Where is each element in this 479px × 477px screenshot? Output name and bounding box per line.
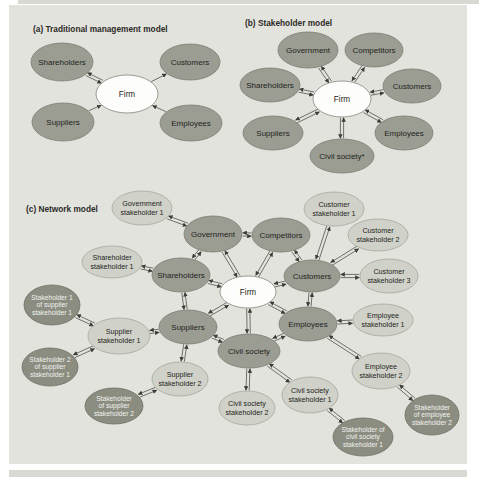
node-c-competitors: Competitors xyxy=(252,218,310,252)
node-c-customer_st2: Customerstakeholder 2 xyxy=(348,219,408,251)
panel-c-title: (c) Network model xyxy=(26,204,98,214)
node-c-shareholders: Shareholders xyxy=(152,258,210,292)
node-b-employees: Employees xyxy=(375,116,433,150)
node-a-shareholders: Shareholders xyxy=(31,43,93,81)
node-c-scs1: Stakeholder ofcivil societystakeholder 1 xyxy=(333,418,393,456)
node-c-supplier_st1: Supplierstakeholder 1 xyxy=(88,318,150,354)
node-c-civil_society: Civil society xyxy=(218,334,280,368)
node-c-ss2: Stakeholderof supplierstakeholder 2 xyxy=(85,388,143,424)
node-b-shareholders: Shareholders xyxy=(240,68,300,102)
node-c-customer_st3: Customerstakeholder 3 xyxy=(360,259,418,293)
node-c-government: Government xyxy=(184,216,242,252)
node-b-customers: Customers xyxy=(383,69,441,103)
node-a-employees: Employees xyxy=(160,105,222,141)
figure-stage: (a) Traditional management model (b) Sta… xyxy=(0,0,479,477)
node-c-s2s1: Stakeholder 2of supplierstakeholder 1 xyxy=(22,348,78,386)
node-c-shareholder_st1: Shareholderstakeholder 1 xyxy=(82,246,142,278)
node-b-firm: Firm xyxy=(313,81,371,117)
node-c-employee_st1: Employeestakeholder 1 xyxy=(353,304,413,336)
node-c-customer_st1: Customerstakeholder 1 xyxy=(304,192,364,226)
node-a-suppliers: Suppliers xyxy=(32,103,94,141)
node-c-supplier_st2: Supplierstakeholder 2 xyxy=(152,362,208,396)
panel-a-title: (a) Traditional management model xyxy=(33,24,168,34)
node-c-s1s1: Stakeholder 1of supplierstakeholder 1 xyxy=(24,285,80,325)
node-c-cs_st2: Civil societystakeholder 2 xyxy=(219,391,275,425)
node-c-government_st1: Governmentstakeholder 1 xyxy=(112,191,172,225)
node-b-suppliers: Suppliers xyxy=(243,116,303,150)
node-b-government: Government xyxy=(278,32,338,68)
node-c-cs_st1: Civil societystakeholder 1 xyxy=(282,377,338,413)
node-c-suppliers: Suppliers xyxy=(159,310,217,344)
node-c-employee_st2: Employeestakeholder 2 xyxy=(352,353,410,389)
node-b-civil_society: Civil society* xyxy=(310,139,374,173)
node-a-customers: Customers xyxy=(160,44,220,80)
node-c-employees: Employees xyxy=(279,307,337,341)
node-a-firm: Firm xyxy=(96,75,158,113)
network-diagram: (a) Traditional management model (b) Sta… xyxy=(0,0,479,477)
top-strip xyxy=(18,0,479,4)
panel-b-title: (b) Stakeholder model xyxy=(245,18,332,28)
node-c-customers: Customers xyxy=(284,260,340,292)
node-b-competitors: Competitors xyxy=(345,33,403,67)
node-c-firm: Firm xyxy=(220,276,276,308)
bottom-strip xyxy=(9,470,467,477)
node-c-ses2: Stakeholderof employeestakeholder 2 xyxy=(405,395,459,435)
